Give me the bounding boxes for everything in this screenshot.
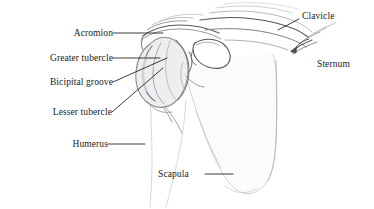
- label-sternum: Sternum: [317, 60, 350, 70]
- label-scapula: Scapula: [158, 170, 189, 180]
- anatomy-figure: Acromion Greater tubercle Bicipital groo…: [0, 0, 374, 209]
- label-humerus: Humerus: [0, 140, 110, 150]
- sternum-ribs: [291, 23, 336, 54]
- label-lesser-tubercle: Lesser tubercle: [0, 108, 114, 118]
- label-acromion: Acromion: [0, 29, 115, 39]
- label-clavicle: Clavicle: [302, 12, 334, 22]
- label-greater-tubercle: Greater tubercle: [0, 54, 115, 64]
- label-bicipital-groove: Bicipital groove: [0, 78, 115, 88]
- scapula-body: [183, 54, 277, 194]
